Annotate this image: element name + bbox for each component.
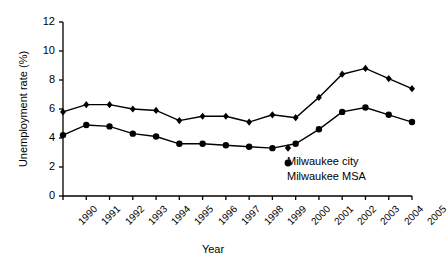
data-point: [199, 141, 205, 147]
data-point: [153, 107, 159, 114]
x-axis-title: Year: [0, 243, 426, 255]
data-point: [83, 101, 89, 108]
series-line: [63, 108, 412, 149]
legend-label: Milwaukee MSA: [287, 170, 366, 183]
data-point: [223, 142, 229, 148]
legend-diamond-marker-icon: [282, 142, 294, 154]
data-point: [386, 75, 392, 82]
data-point: [339, 109, 345, 115]
series-milwaukee-city: [60, 65, 415, 126]
data-point: [269, 145, 275, 151]
data-point: [409, 85, 415, 92]
data-point: [269, 111, 275, 118]
y-axis-tick-label: 10: [33, 45, 55, 56]
data-point: [246, 118, 252, 125]
y-axis-title: Unemployment rate (%): [17, 24, 29, 194]
data-point: [176, 141, 182, 147]
data-point: [130, 105, 136, 112]
data-point: [316, 126, 322, 132]
data-point: [130, 130, 136, 136]
y-axis-tick-label: 4: [33, 132, 55, 143]
y-axis-tick-label: 2: [33, 161, 55, 172]
data-point: [107, 101, 113, 108]
data-point: [153, 133, 159, 139]
data-point: [60, 132, 66, 138]
data-point: [176, 117, 182, 124]
diamond-icon: [285, 144, 291, 152]
data-point: [246, 144, 252, 150]
y-axis-tick-label: 8: [33, 74, 55, 85]
data-point: [223, 113, 229, 120]
x-axis-tick-label: 2005: [426, 204, 448, 227]
data-point: [362, 104, 368, 110]
data-point: [83, 122, 89, 128]
data-point: [200, 113, 206, 120]
legend-item: Milwaukee MSA: [282, 157, 366, 183]
data-point: [363, 65, 369, 72]
data-point: [386, 112, 392, 118]
data-point: [106, 123, 112, 129]
series-milwaukee-msa: [60, 104, 415, 151]
series-line: [63, 68, 412, 122]
y-axis-tick-label: 6: [33, 103, 55, 114]
legend-circle-marker-icon: [282, 157, 294, 169]
circle-icon: [285, 160, 292, 167]
data-point: [409, 119, 415, 125]
y-axis-tick-label: 0: [33, 190, 55, 201]
y-axis-tick-label: 12: [33, 16, 55, 27]
